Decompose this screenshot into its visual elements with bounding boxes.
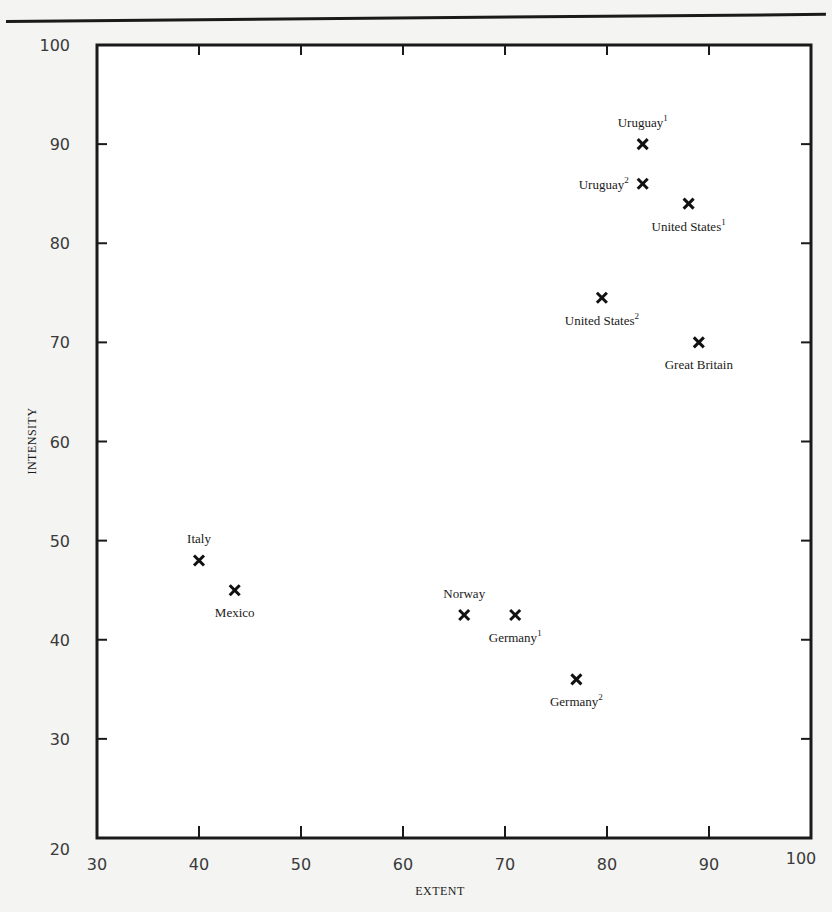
y-tick-label: 80 bbox=[50, 234, 70, 253]
point-label: Great Britain bbox=[665, 357, 734, 372]
x-tick-label: 100 bbox=[786, 849, 817, 868]
point-label: Mexico bbox=[215, 605, 255, 620]
point-label: Uruguay1 bbox=[618, 113, 668, 130]
y-tick-label: 90 bbox=[50, 135, 70, 154]
y-tick-label: 70 bbox=[50, 333, 70, 352]
point-label: United States1 bbox=[652, 217, 726, 234]
x-tick-label: 70 bbox=[495, 855, 515, 874]
point-label: Norway bbox=[443, 586, 485, 601]
y-tick-label: 20 bbox=[50, 840, 70, 859]
x-tick-label: 40 bbox=[189, 855, 209, 874]
scatter-chart: 2030405060708090100 30405060708090100 Ur… bbox=[0, 0, 832, 912]
point-label: Italy bbox=[187, 531, 211, 546]
x-axis-title: EXTENT bbox=[415, 884, 465, 898]
y-tick-label: 30 bbox=[50, 730, 70, 749]
point-label: Germany2 bbox=[550, 692, 603, 709]
x-tick-label: 50 bbox=[291, 855, 311, 874]
x-tick-label: 80 bbox=[597, 855, 617, 874]
y-tick-label: 60 bbox=[50, 433, 70, 452]
point-label: Germany1 bbox=[489, 628, 542, 645]
x-tick-label: 30 bbox=[87, 855, 107, 874]
plot-frame bbox=[97, 45, 811, 838]
x-tick-label: 60 bbox=[393, 855, 413, 874]
point-label: Uruguay2 bbox=[579, 175, 629, 192]
y-axis-title: INTENSITY bbox=[25, 407, 39, 474]
point-label: United States2 bbox=[565, 311, 639, 328]
y-tick-label: 100 bbox=[39, 36, 70, 55]
y-tick-label: 50 bbox=[50, 532, 70, 551]
x-tick-label: 90 bbox=[699, 855, 719, 874]
y-tick-label: 40 bbox=[50, 631, 70, 650]
